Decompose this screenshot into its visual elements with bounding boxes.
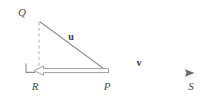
vector-label-u: u (68, 31, 74, 42)
figure-canvas: Q R P S u v (0, 0, 219, 97)
vector-label-v: v (137, 57, 142, 68)
point-label-s: S (188, 80, 194, 92)
projection-vector-outline (34, 66, 109, 75)
point-label-q: Q (18, 6, 26, 18)
point-label-p: P (103, 80, 111, 92)
hypotenuse-segment (40, 22, 110, 73)
vector-projection-figure: Q R P S u v (0, 0, 219, 97)
point-label-r: R (31, 80, 39, 92)
